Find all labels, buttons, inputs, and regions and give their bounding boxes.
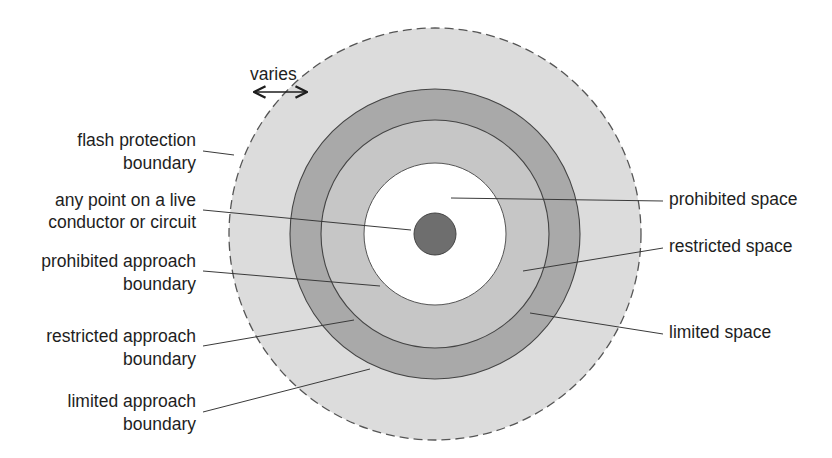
svg-text:prohibited approach: prohibited approach <box>41 251 196 271</box>
svg-text:limited approach: limited approach <box>68 391 196 411</box>
svg-text:prohibited space: prohibited space <box>669 189 797 209</box>
svg-text:restricted space: restricted space <box>669 236 793 256</box>
leader-line <box>203 151 234 155</box>
approach-boundaries-diagram: varies flash protection boundary any poi… <box>0 0 832 458</box>
svg-text:flash protection: flash protection <box>77 130 196 150</box>
svg-text:conductor or circuit: conductor or circuit <box>48 212 196 232</box>
svg-text:restricted approach: restricted approach <box>46 326 196 346</box>
live-conductor-dot <box>414 213 456 255</box>
svg-text:boundary: boundary <box>123 274 196 294</box>
varies-label: varies <box>250 64 297 84</box>
svg-text:boundary: boundary <box>123 349 196 369</box>
svg-text:limited space: limited space <box>669 322 771 342</box>
svg-text:boundary: boundary <box>123 414 196 434</box>
label-flash-protection-boundary: flash protection boundary <box>77 130 234 173</box>
svg-text:boundary: boundary <box>123 153 196 173</box>
svg-text:any point on a live: any point on a live <box>55 190 196 210</box>
